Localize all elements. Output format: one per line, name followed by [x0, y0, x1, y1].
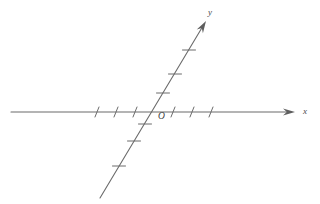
- coordinate-axes-svg: [0, 0, 320, 204]
- y-axis-arrowhead: [197, 21, 206, 33]
- y-axis-label: y: [208, 8, 212, 17]
- figure-canvas: x y O: [0, 0, 320, 204]
- x-axis-label: x: [303, 107, 307, 116]
- origin-label: O: [158, 112, 165, 122]
- y-axis-oblique: [100, 21, 206, 198]
